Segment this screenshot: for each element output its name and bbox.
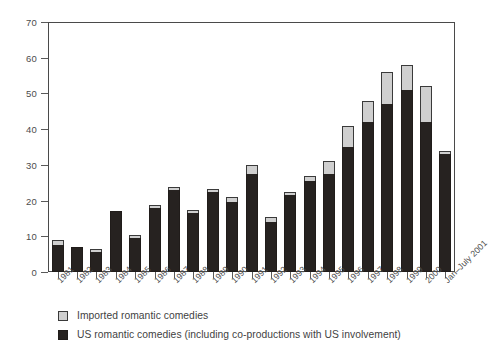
y-axis-tick-label: 20 <box>1 195 37 206</box>
bar-group <box>207 189 219 272</box>
bar-segment-us <box>110 211 122 272</box>
y-axis-tick <box>41 165 48 166</box>
bar-segment-us <box>284 195 296 272</box>
y-axis-tick-label: 60 <box>1 52 37 63</box>
legend-swatch-us-icon <box>58 330 68 340</box>
bar-group <box>149 205 161 272</box>
bar-segment-imported <box>381 72 393 104</box>
bar-segment-us <box>149 208 161 272</box>
bar-group <box>226 197 238 272</box>
bar-group <box>362 101 374 272</box>
y-axis-tick <box>41 58 48 59</box>
y-axis-tick <box>41 129 48 130</box>
bar-group <box>401 65 413 272</box>
bar-segment-us <box>246 174 258 272</box>
y-axis-tick-label: 10 <box>1 231 37 242</box>
bar-segment-imported <box>362 101 374 122</box>
legend-swatch-imported-icon <box>58 311 68 321</box>
y-axis-tick-label: 50 <box>1 88 37 99</box>
bar-group <box>284 192 296 272</box>
y-axis-tick <box>41 93 48 94</box>
bar-segment-imported <box>420 86 432 122</box>
bar-segment-us <box>187 213 199 272</box>
bar-segment-us <box>207 192 219 272</box>
bar-segment-imported <box>401 65 413 90</box>
bar-group <box>439 151 451 272</box>
bar-group <box>246 165 258 272</box>
bar-group <box>381 72 393 272</box>
bar-group <box>168 187 180 272</box>
bar-group <box>420 86 432 272</box>
y-axis-tick <box>41 22 48 23</box>
bar-segment-us <box>401 90 413 272</box>
y-axis-tick <box>41 236 48 237</box>
legend-label-us: US romantic comedies (including co-produ… <box>77 329 401 340</box>
bars-layer <box>48 22 455 272</box>
bar-group <box>265 217 277 272</box>
bar-group <box>323 161 335 272</box>
bar-segment-us <box>420 122 432 272</box>
y-axis-tick-label: 30 <box>1 159 37 170</box>
legend-item-us: US romantic comedies (including co-produ… <box>58 325 468 344</box>
bar-segment-us <box>304 181 316 272</box>
bar-group <box>187 210 199 272</box>
bar-group <box>110 211 122 272</box>
bar-segment-us <box>226 202 238 272</box>
bar-segment-imported <box>246 165 258 174</box>
y-axis-tick-label: 40 <box>1 124 37 135</box>
y-axis-tick <box>41 201 48 202</box>
bar-segment-us <box>265 222 277 272</box>
bar-segment-imported <box>342 126 354 147</box>
bar-segment-us <box>323 174 335 272</box>
bar-segment-us <box>168 190 180 272</box>
bar-segment-us <box>342 147 354 272</box>
bar-segment-us <box>362 122 374 272</box>
bar-group <box>52 240 64 272</box>
bar-segment-imported <box>323 161 335 174</box>
legend-item-imported: Imported romantic comedies <box>58 306 468 325</box>
bar-segment-us <box>52 245 64 272</box>
bar-segment-us <box>381 104 393 272</box>
legend-label-imported: Imported romantic comedies <box>77 310 208 321</box>
bar-group <box>129 235 141 272</box>
bar-group <box>342 126 354 272</box>
bar-group <box>304 176 316 272</box>
chart-legend: Imported romantic comedies US romantic c… <box>58 306 468 344</box>
bar-segment-us <box>439 154 451 272</box>
y-axis-tick-label: 70 <box>1 17 37 28</box>
